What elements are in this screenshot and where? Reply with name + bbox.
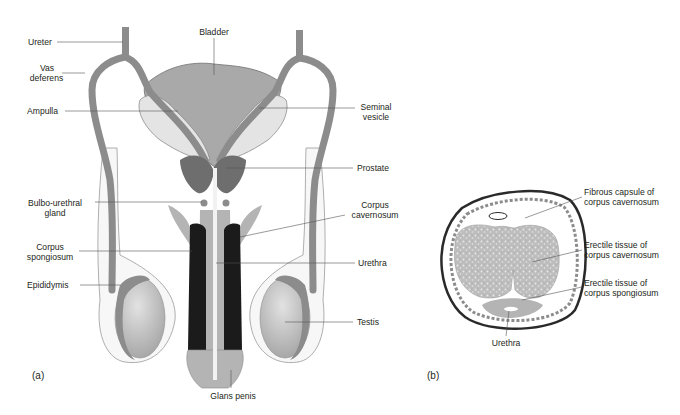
corpora-cavernosa-section (454, 225, 559, 298)
label-vas-deferens-line1: Vas (32, 63, 62, 74)
label-corpus-cavernosum-line1: Corpus (345, 200, 405, 211)
anatomy-diagram (0, 0, 680, 415)
ureter-left (122, 27, 129, 57)
label-seminal-vesicle-line2: vesicle (356, 112, 396, 123)
crus-left (168, 205, 192, 248)
urethra-section (504, 307, 518, 311)
label-bulbourethral-line2: gland (20, 208, 90, 219)
corpus-cavernosum-right (224, 224, 242, 355)
panel-b-illustration (441, 191, 585, 329)
bulbourethral-gland-left (201, 200, 208, 207)
label-testis: Testis (357, 317, 379, 328)
panel-label-b: (b) (427, 370, 439, 381)
label-bladder: Bladder (192, 27, 236, 38)
label-corpus-cavernosum-line2: cavernosum (345, 210, 405, 221)
label-erectile-cavernosum-line2: corpus cavernosum (584, 250, 659, 261)
panel-a-illustration (92, 27, 333, 388)
label-glans-penis: Glans penis (205, 391, 261, 402)
label-seminal-vesicle-line1: Seminal (356, 102, 396, 113)
label-erectile-cavernosum-line1: Erectile tissue of (584, 240, 647, 251)
label-epididymis: Epididymis (27, 280, 69, 291)
label-prostate: Prostate (357, 163, 389, 174)
label-erectile-spongiosum-line1: Erectile tissue of (584, 278, 647, 289)
label-erectile-spongiosum-line2: corpus spongiosum (584, 288, 659, 299)
label-ureter: Ureter (28, 37, 52, 48)
label-corpus-spongiosum-line1: Corpus (22, 242, 78, 253)
dorsal-vein (489, 213, 507, 220)
label-urethra-section: Urethra (478, 338, 534, 349)
label-bulbourethral-line1: Bulbo-urethral (20, 198, 90, 209)
corpus-cavernosum-left (188, 224, 206, 355)
label-vas-deferens-line2: deferens (24, 73, 69, 84)
crus-right (238, 205, 262, 248)
label-ampulla: Ampulla (27, 106, 58, 117)
bulbourethral-gland-right (223, 200, 230, 207)
label-urethra: Urethra (358, 258, 387, 269)
label-fibrous-capsule-line2: corpus cavernosum (584, 197, 659, 208)
label-fibrous-capsule-line1: Fibrous capsule of (584, 187, 654, 198)
panel-label-a: (a) (32, 370, 44, 381)
label-corpus-spongiosum-line2: spongiosum (22, 252, 78, 263)
urethra (213, 168, 217, 380)
ureter-right (296, 30, 303, 58)
